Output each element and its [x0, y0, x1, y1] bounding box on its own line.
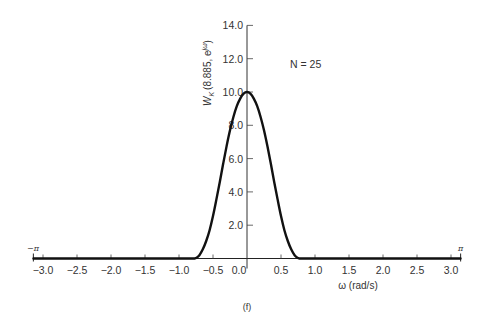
y-title-close: )	[202, 40, 213, 43]
y-axis-title: WK(8.885, ejω)	[201, 40, 215, 106]
x-tick-label: 0.0	[232, 264, 247, 276]
annotation-n: N = 25	[290, 58, 321, 70]
pos-pi-label: π	[457, 244, 464, 253]
x-tick-label: 1.5	[342, 264, 357, 276]
svg-text:WK(8.885, ejω): WK(8.885, ejω)	[201, 40, 215, 106]
panel-label: (f)	[243, 302, 252, 312]
neg-pi-label: −π	[27, 244, 40, 253]
x-tick-label: −3.0	[33, 264, 54, 276]
x-tick-label: 3.0	[444, 264, 459, 276]
x-tick-label: 2.5	[410, 264, 425, 276]
x-tick-label: 1.0	[308, 264, 323, 276]
y-tick-label: 14.0	[223, 19, 244, 31]
x-tick-label: 2.0	[376, 264, 391, 276]
x-axis-title: ω (rad/s)	[338, 280, 377, 291]
x-tick-label: −1.5	[135, 264, 156, 276]
y-tick-label: 12.0	[223, 53, 244, 65]
y-title-sub: K	[208, 92, 215, 97]
y-title-rest: (8.885, e	[202, 50, 213, 90]
x-tick-label: −2.0	[101, 264, 122, 276]
y-tick-label: 10.0	[223, 86, 244, 98]
x-tick-label: 0.5	[274, 264, 289, 276]
y-tick-label: 4.0	[228, 186, 243, 198]
x-tick-label: −1.0	[169, 264, 190, 276]
chart-svg: −3.0−2.5−2.0−1.5−1.0−0.50.00.51.01.52.02…	[0, 0, 486, 319]
y-tick-label: 6.0	[228, 153, 243, 165]
y-tick-label: 2.0	[228, 219, 243, 231]
x-tick-label: −0.5	[203, 264, 224, 276]
x-tick-label: −2.5	[67, 264, 88, 276]
